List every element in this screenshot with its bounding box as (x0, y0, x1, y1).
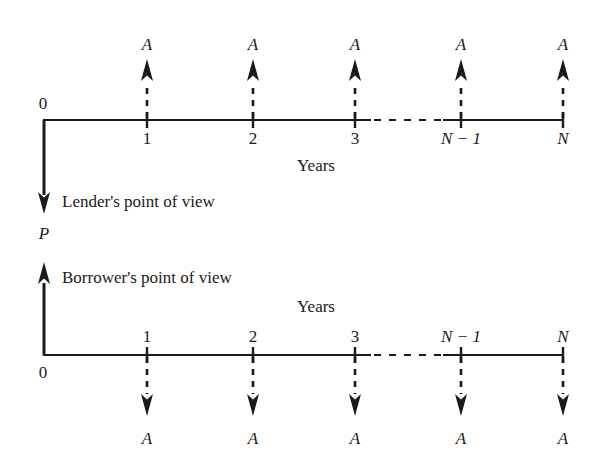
borrower-amount-label-5: A (558, 430, 568, 447)
borrower-principal-arrow (38, 262, 50, 355)
lender-years-axis-label: Years (297, 157, 335, 174)
borrower-amount-label-4: A (456, 430, 466, 447)
cash-flow-diagram: 0 A A A A A 1 2 3 N − 1 N Years Lender's… (0, 0, 603, 471)
lender-principal-arrow (38, 120, 50, 214)
borrower-tick-label-1: 1 (143, 328, 152, 345)
borrower-amount-label-1: A (142, 430, 152, 447)
borrower-amount-label-3: A (350, 430, 360, 447)
borrower-payment-arrow-2 (247, 357, 259, 416)
lender-panel (38, 59, 569, 214)
lender-tick-label-3: 3 (351, 130, 360, 147)
lender-payment-arrow-1 (141, 59, 153, 118)
borrower-payment-arrow-4 (455, 357, 467, 416)
borrower-tick-label-5: N (557, 328, 568, 345)
borrower-origin-label: 0 (39, 364, 48, 381)
borrower-amount-label-2: A (248, 430, 258, 447)
borrower-tick-label-3: 3 (351, 328, 360, 345)
borrower-payment-arrow-1 (141, 357, 153, 416)
lender-origin-label: 0 (39, 95, 48, 112)
lender-payment-arrow-3 (349, 59, 361, 118)
lender-amount-label-2: A (248, 36, 258, 53)
lender-payment-arrow-4 (455, 59, 467, 118)
lender-tick-label-1: 1 (143, 130, 152, 147)
borrower-tick-label-2: 2 (249, 328, 258, 345)
lender-amount-label-4: A (456, 36, 466, 53)
borrower-payment-arrows (141, 357, 569, 416)
lender-payment-arrow-2 (247, 59, 259, 118)
lender-payment-arrow-5 (557, 59, 569, 118)
diagram-canvas (0, 0, 603, 471)
lender-tick-label-5: N (557, 130, 568, 147)
lender-amount-label-1: A (142, 36, 152, 53)
borrower-payment-arrow-5 (557, 357, 569, 416)
borrower-tick-label-4: N − 1 (441, 328, 481, 345)
lender-viewpoint-label: Lender's point of view (62, 193, 215, 210)
lender-principal-label: P (39, 225, 49, 242)
lender-tick-label-4: N − 1 (441, 130, 481, 147)
lender-tick-label-2: 2 (249, 130, 258, 147)
lender-payment-arrows (141, 59, 569, 118)
lender-amount-label-5: A (558, 36, 568, 53)
borrower-payment-arrow-3 (349, 357, 361, 416)
borrower-years-axis-label: Years (297, 298, 335, 315)
borrower-viewpoint-label: Borrower's point of view (62, 269, 232, 286)
lender-amount-label-3: A (350, 36, 360, 53)
